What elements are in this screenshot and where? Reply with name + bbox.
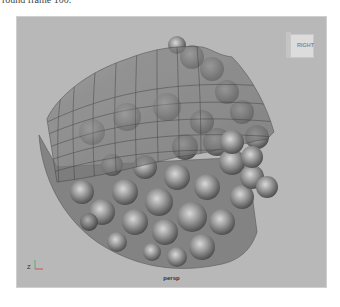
scene-render bbox=[17, 17, 327, 288]
perspective-viewport[interactable]: RIGHT Z persp bbox=[16, 16, 327, 288]
view-cube[interactable]: RIGHT bbox=[286, 30, 316, 60]
axis-label: Z bbox=[27, 264, 31, 270]
camera-name-label: persp bbox=[17, 275, 326, 281]
view-cube-label: RIGHT bbox=[297, 42, 314, 48]
caption-text: round frame 100. bbox=[2, 0, 71, 5]
axis-gizmo: Z bbox=[27, 257, 47, 277]
